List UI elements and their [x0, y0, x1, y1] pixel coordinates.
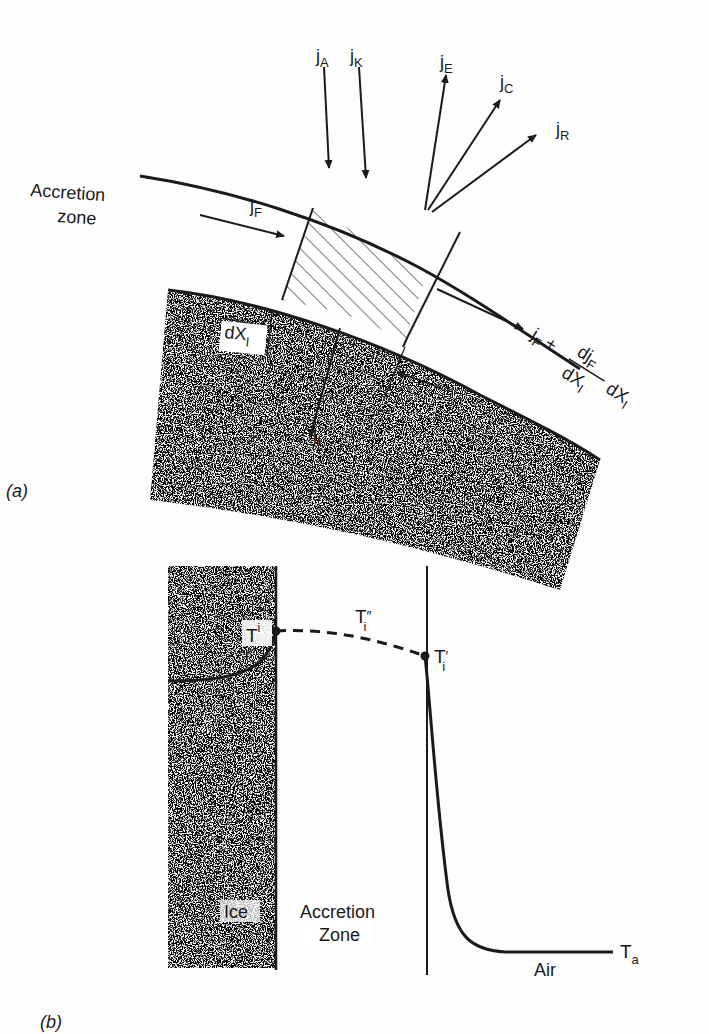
point-T-prime: [421, 652, 430, 661]
label-jF: jF: [249, 196, 262, 220]
label-jE: jE: [439, 52, 453, 76]
label-T-air: Ta: [620, 941, 640, 967]
accretion-zone-label-line1: Accretion: [30, 180, 106, 205]
svg-text:Accretion: Accretion: [300, 902, 375, 922]
dx-label: dXI: [219, 321, 268, 356]
flux-arrow-outflow: [437, 289, 523, 329]
label-T-double-prime: T″i: [355, 606, 372, 634]
flux-arrow-jA: [324, 67, 329, 168]
svg-text:Zone: Zone: [319, 925, 360, 945]
label-T-prime: T′i: [434, 646, 449, 674]
caption-b: (b): [40, 1012, 62, 1032]
flux-arrow-jR: [432, 135, 536, 212]
panel-a: jA jK jE jC jR jF jI Accretion zone dXI …: [6, 46, 644, 600]
accretion-zone-label-line2: zone: [57, 206, 97, 229]
flux-arrow-jK: [359, 67, 366, 178]
accretion-temperature-profile: [276, 631, 425, 656]
label-jR: jR: [555, 119, 569, 143]
point-T-surface: [272, 627, 281, 636]
svg-text:Ice: Ice: [224, 902, 248, 922]
label-jK: jK: [349, 46, 363, 70]
label-T-surface: Ti: [242, 620, 272, 646]
panel-b: Ti T″i T′i Ta Ice Accretion Zone Air (b): [40, 566, 640, 1032]
label-jC: jC: [499, 72, 513, 96]
svg-text:dXI: dXI: [601, 378, 635, 412]
air-temperature-profile: [425, 656, 613, 952]
flux-arrow-jE: [425, 75, 446, 210]
label-air: Air: [534, 960, 556, 980]
label-jA: jA: [315, 46, 329, 70]
label-accretion-zone: Accretion Zone: [297, 898, 375, 946]
accretion-diagram: jA jK jE jC jR jF jI Accretion zone dXI …: [0, 0, 709, 1034]
flux-arrow-jF: [200, 215, 284, 236]
label-ice: Ice: [220, 900, 260, 922]
caption-a: (a): [6, 481, 28, 501]
